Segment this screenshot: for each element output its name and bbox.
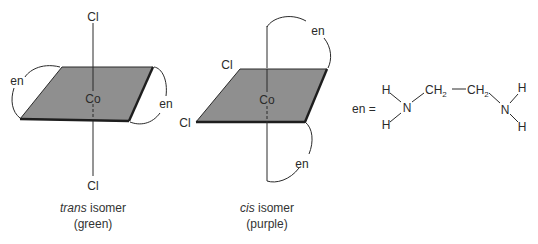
en-ch2-b: CH2 <box>467 83 489 99</box>
cis-co-label: Co <box>259 93 275 107</box>
trans-en-right-arc-bottom <box>130 113 160 124</box>
cis-en-top-arc-left <box>267 17 306 27</box>
cis-en-top-arc-right <box>324 38 331 68</box>
trans-isomer: Cl Co Cl en en trans isomer (green) <box>10 10 172 231</box>
ethylenediamine-formula: en = H H N CH2 CH2 N H H <box>352 81 526 134</box>
en-n1: N <box>403 101 412 115</box>
en-h1: H <box>382 83 391 97</box>
trans-caption-color: (green) <box>74 217 113 231</box>
cis-en-bottom-arc-top <box>305 122 312 154</box>
trans-en-left-arc-bottom <box>12 88 20 118</box>
cis-isomer: Co Cl Cl en en cis isomer (purple) <box>179 17 330 231</box>
trans-co-label: Co <box>85 92 101 106</box>
cis-caption-color: (purple) <box>246 217 287 231</box>
cis-caption: cis isomer <box>240 201 294 215</box>
cis-cl-upper: Cl <box>221 58 232 72</box>
en-h3: H <box>518 81 527 95</box>
trans-en-right-arc-top <box>154 67 166 96</box>
en-ch2-a: CH2 <box>425 83 447 99</box>
en-h4: H <box>518 120 527 134</box>
en-bond-h2-n1 <box>390 113 401 122</box>
en-bond-n2-h3 <box>510 94 518 103</box>
en-equals-label: en = <box>352 102 376 116</box>
en-n2: N <box>501 103 510 117</box>
en-bond-h1-n1 <box>390 93 401 102</box>
trans-cl-bottom: Cl <box>87 179 98 193</box>
isomer-diagram: Cl Co Cl en en trans isomer (green) Co C… <box>0 0 538 244</box>
trans-cl-top: Cl <box>87 10 98 24</box>
en-h2: H <box>382 118 391 132</box>
trans-caption: trans isomer <box>60 201 126 215</box>
cis-en-bottom-arc-bottom <box>267 168 299 182</box>
en-bond-ch2-n2 <box>489 93 500 103</box>
cis-en-top: en <box>311 24 324 38</box>
trans-en-left: en <box>10 74 23 88</box>
cis-en-bottom: en <box>295 157 308 171</box>
cis-cl-left: Cl <box>179 116 190 130</box>
trans-en-right: en <box>159 97 172 111</box>
en-bond-n1-ch2 <box>412 93 424 102</box>
